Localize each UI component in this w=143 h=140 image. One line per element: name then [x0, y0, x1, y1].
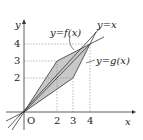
y-tick-2: 2 — [14, 72, 20, 83]
y-tick-4: 4 — [14, 38, 20, 49]
x-tick-3: 3 — [70, 115, 76, 126]
f-label: y=f(x) — [49, 27, 81, 38]
x-axis-arrow-icon — [132, 110, 136, 114]
y-axis-arrow-icon — [22, 19, 26, 24]
g-label-leader — [86, 60, 95, 63]
identity-label: y=x — [96, 19, 117, 30]
x-axis-label: x — [125, 116, 131, 127]
x-tick-4: 4 — [87, 115, 93, 126]
origin-label: O — [27, 115, 35, 126]
y-tick-3: 3 — [14, 55, 20, 66]
f-label-leader — [70, 36, 75, 50]
function-graph: y x O 2 3 4 2 3 4 y=f(x) y=x y=g(x) — [0, 0, 143, 140]
y-axis-label: y — [14, 19, 21, 30]
x-tick-2: 2 — [54, 115, 60, 126]
g-label: y=g(x) — [95, 55, 130, 66]
